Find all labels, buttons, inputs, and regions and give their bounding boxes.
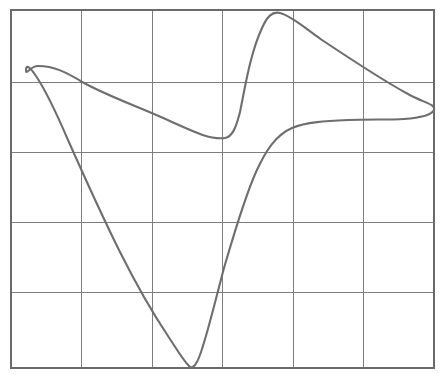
figure-container	[0, 0, 444, 378]
plot-svg	[0, 0, 444, 378]
